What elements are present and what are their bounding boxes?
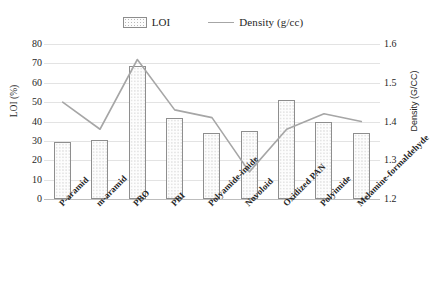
bar-swatch-icon bbox=[123, 17, 147, 28]
y-axis-right-tick-label: 1.6 bbox=[384, 39, 414, 49]
y-axis-right-tick-label: 1.2 bbox=[384, 194, 414, 204]
y-axis-left-ticks: 80706050403020100 bbox=[12, 0, 42, 298]
y-axis-left-tick-label: 80 bbox=[12, 39, 42, 49]
y-axis-right-tick-label: 1.4 bbox=[384, 117, 414, 127]
y-axis-right-tick-label: 1.5 bbox=[384, 78, 414, 88]
legend-label-density: Density (g/cc) bbox=[239, 16, 303, 28]
y-axis-left-tick-label: 50 bbox=[12, 97, 42, 107]
legend-item-density[interactable]: Density (g/cc) bbox=[208, 16, 303, 28]
legend-item-loi[interactable]: LOI bbox=[123, 16, 171, 28]
y-axis-left-tick-label: 10 bbox=[12, 175, 42, 185]
x-axis-category-labels: P-aramidm-aramidPBOPBIPolyamide-imideNov… bbox=[44, 201, 380, 296]
y-axis-left-tick-label: 40 bbox=[12, 117, 42, 127]
y-axis-left-tick-label: 60 bbox=[12, 78, 42, 88]
plot-area bbox=[44, 44, 380, 199]
y-axis-left-tick-label: 20 bbox=[12, 155, 42, 165]
line-series-density bbox=[44, 44, 380, 199]
legend-label-loi: LOI bbox=[152, 16, 171, 28]
y-axis-left-tick-label: 70 bbox=[12, 58, 42, 68]
y-axis-left-tick-label: 30 bbox=[12, 136, 42, 146]
y-axis-left-tick-label: 0 bbox=[12, 194, 42, 204]
chart-legend: LOI Density (g/cc) bbox=[0, 13, 426, 31]
line-swatch-icon bbox=[208, 22, 234, 23]
